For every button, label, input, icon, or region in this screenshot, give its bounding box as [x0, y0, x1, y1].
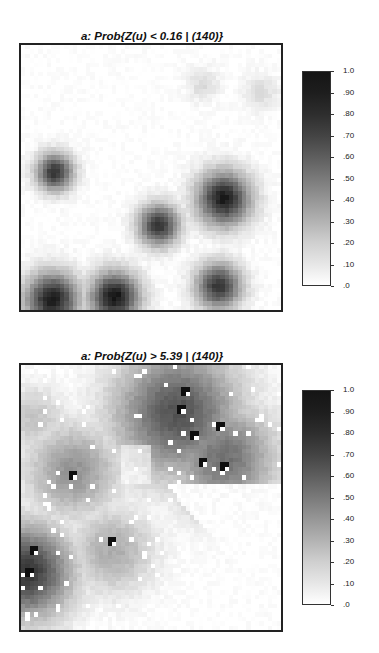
- colorbar-tick: [331, 93, 334, 94]
- map-a-raster: [21, 45, 281, 310]
- colorbar-b: [302, 390, 331, 605]
- colorbar-tick: [331, 114, 334, 115]
- colorbar-tick: [331, 412, 334, 413]
- colorbar-tick-label: .40: [343, 515, 354, 523]
- colorbar-tick-label: 1.0: [343, 386, 354, 394]
- colorbar-tick: [331, 584, 334, 585]
- colorbar-tick: [331, 265, 334, 266]
- colorbar-tick-label: .70: [343, 451, 354, 459]
- colorbar-tick-label: 1.0: [343, 67, 354, 75]
- map-b-title: a: Prob{Z(u) > 5.39 | (140)}: [19, 350, 285, 362]
- colorbar-tick: [331, 519, 334, 520]
- colorbar-tick: [331, 179, 334, 180]
- map-b-raster: [21, 365, 281, 630]
- colorbar-tick: [331, 498, 334, 499]
- colorbar-tick-label: .50: [343, 175, 354, 183]
- colorbar-tick-label: .90: [343, 89, 354, 97]
- map-b: [19, 363, 283, 632]
- colorbar-tick: [331, 136, 334, 137]
- colorbar-tick: [331, 200, 334, 201]
- colorbar-tick-label: .10: [343, 580, 354, 588]
- colorbar-tick: [331, 286, 334, 287]
- colorbar-tick: [331, 433, 334, 434]
- colorbar-tick: [331, 71, 334, 72]
- colorbar-tick-label: .80: [343, 429, 354, 437]
- colorbar-tick-label: .60: [343, 153, 354, 161]
- colorbar-tick: [331, 390, 334, 391]
- colorbar-tick-label: .80: [343, 110, 354, 118]
- colorbar-tick: [331, 455, 334, 456]
- colorbar-tick-label: .10: [343, 261, 354, 269]
- colorbar-tick: [331, 222, 334, 223]
- colorbar-tick-label: .20: [343, 558, 354, 566]
- colorbar-tick-label: .0: [343, 601, 350, 609]
- colorbar-tick-label: .40: [343, 196, 354, 204]
- colorbar-tick: [331, 562, 334, 563]
- colorbar-tick-label: .30: [343, 537, 354, 545]
- colorbar-tick-label: .0: [343, 282, 350, 290]
- map-a-title: a: Prob{Z(u) < 0.16 | (140)}: [19, 30, 285, 42]
- colorbar-tick: [331, 476, 334, 477]
- colorbar-a: [302, 71, 331, 286]
- colorbar-tick: [331, 541, 334, 542]
- colorbar-tick-label: .20: [343, 239, 354, 247]
- colorbar-tick-label: .50: [343, 494, 354, 502]
- colorbar-tick-label: .90: [343, 408, 354, 416]
- colorbar-tick: [331, 243, 334, 244]
- colorbar-tick-label: .30: [343, 218, 354, 226]
- colorbar-tick-label: .70: [343, 132, 354, 140]
- map-a: [19, 43, 283, 312]
- colorbar-tick: [331, 157, 334, 158]
- colorbar-tick-label: .60: [343, 472, 354, 480]
- colorbar-tick: [331, 605, 334, 606]
